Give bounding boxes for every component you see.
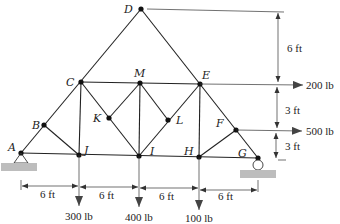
node-B bbox=[41, 122, 46, 127]
label-E: E bbox=[201, 69, 210, 82]
node-M bbox=[137, 80, 142, 85]
member-MI bbox=[139, 83, 140, 156]
load-label-J: 300 lb bbox=[65, 210, 93, 222]
label-M: M bbox=[133, 67, 146, 80]
load-arrows-vertical bbox=[79, 155, 199, 210]
dim-label-height-top: 6 ft bbox=[287, 42, 302, 54]
member-KM bbox=[109, 83, 140, 118]
ext-line-D bbox=[147, 9, 284, 12]
label-I: I bbox=[149, 145, 155, 158]
dim-label-span-3: 6 ft bbox=[159, 190, 174, 202]
dim-label-span-1: 6 ft bbox=[40, 188, 55, 200]
member-HF bbox=[199, 130, 236, 157]
member-BJ bbox=[44, 125, 79, 155]
pin-support bbox=[1, 153, 37, 171]
label-H: H bbox=[183, 145, 194, 158]
truss-diagram: D C M E K L B A J I H F G 300 lb 400 lb … bbox=[0, 0, 340, 224]
member-CJ bbox=[79, 82, 81, 155]
label-G: G bbox=[238, 147, 247, 160]
label-F: F bbox=[215, 117, 224, 130]
dim-label-span-2: 6 ft bbox=[99, 189, 114, 201]
label-B: B bbox=[31, 119, 40, 132]
node-K bbox=[106, 115, 111, 120]
ground-right bbox=[240, 170, 276, 178]
load-arrow-F bbox=[236, 130, 302, 131]
label-C: C bbox=[66, 76, 75, 89]
node-L bbox=[165, 117, 170, 122]
label-L: L bbox=[175, 114, 183, 127]
label-A: A bbox=[7, 141, 16, 154]
member-EH bbox=[199, 84, 200, 157]
dim-label-span-4: 6 ft bbox=[218, 190, 233, 202]
node-D bbox=[138, 6, 143, 11]
roller-support bbox=[240, 160, 276, 178]
load-label-H: 100 lb bbox=[185, 212, 213, 224]
load-label-F: 500 lb bbox=[306, 125, 334, 137]
node-C bbox=[78, 79, 83, 84]
dim-label-height-bottom: 3 ft bbox=[285, 140, 300, 152]
label-K: K bbox=[92, 112, 102, 125]
ground-left bbox=[1, 163, 37, 171]
load-label-E: 200 lb bbox=[306, 79, 334, 91]
member-ML bbox=[140, 83, 168, 120]
load-arrow-E bbox=[200, 84, 303, 85]
load-label-I: 400 lb bbox=[125, 211, 153, 223]
dim-label-height-mid: 3 ft bbox=[285, 104, 300, 116]
label-D: D bbox=[123, 3, 133, 16]
label-J: J bbox=[82, 144, 89, 157]
